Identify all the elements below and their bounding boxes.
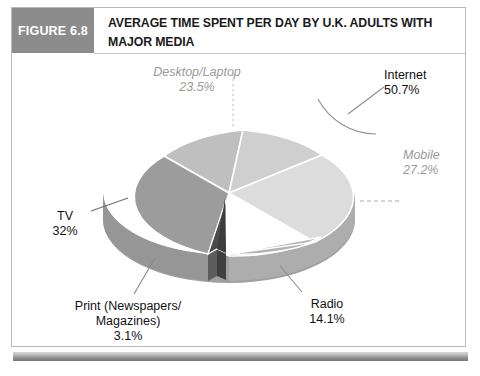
pie-label-radio: Radio14.1% (286, 297, 368, 327)
pie-label-print-name-line1: Print (Newspapers/ (75, 299, 181, 313)
pie-label-internet: Internet50.7% (384, 68, 474, 98)
pie-label-tv-value: 32% (52, 224, 77, 238)
pie-label-radio-name: Radio (311, 297, 344, 311)
leader-line-internet (348, 87, 384, 114)
figure-frame: FIGURE 6.8 AVERAGE TIME SPENT PER DAY BY… (11, 7, 466, 347)
pie-label-internet-name: Internet (384, 68, 426, 82)
pie-label-print-value: 3.1% (114, 329, 143, 343)
pie-label-mobile-value: 27.2% (403, 163, 438, 177)
pie-label-print-name-line2: Magazines) (96, 314, 161, 328)
leader-bracket-internet (318, 99, 376, 134)
pie-label-mobile-name: Mobile (403, 148, 440, 162)
pie-label-desktop-laptop-name: Desktop/Laptop (153, 65, 241, 79)
pie-label-tv-name: TV (57, 209, 73, 223)
pie-label-radio-value: 14.1% (309, 312, 344, 326)
pie-top-face (134, 130, 353, 256)
pie-label-desktop-laptop-value: 23.5% (179, 80, 214, 94)
pie-label-tv: TV32% (26, 209, 104, 239)
pie-label-internet-value: 50.7% (384, 83, 419, 97)
pie-label-print: Print (Newspapers/Magazines)3.1% (55, 299, 201, 344)
figure-number-box: FIGURE 6.8 (12, 8, 94, 53)
pie-label-desktop-laptop: Desktop/Laptop23.5% (137, 65, 257, 95)
figure-number-label: FIGURE 6.8 (18, 24, 88, 38)
pie-chart: Desktop/Laptop23.5% Internet50.7% Mobile… (12, 54, 465, 346)
figure-title-box: AVERAGE TIME SPENT PER DAY BY U.K. ADULT… (94, 8, 465, 53)
figure-header: FIGURE 6.8 AVERAGE TIME SPENT PER DAY BY… (12, 8, 465, 53)
figure-title: AVERAGE TIME SPENT PER DAY BY U.K. ADULT… (108, 16, 432, 49)
figure-footer-bar (13, 352, 468, 361)
pie-label-mobile: Mobile27.2% (403, 148, 473, 178)
